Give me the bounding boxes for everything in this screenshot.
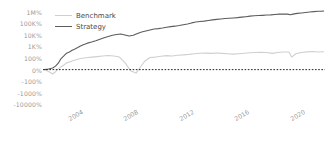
legend-color-swatch xyxy=(55,15,72,16)
x-tick-label: 2012 xyxy=(178,108,195,122)
x-tick-label: 2008 xyxy=(122,108,139,122)
legend-color-swatch xyxy=(55,26,72,27)
cumulative-returns-chart: 1M%100K%10K%1K%100%0%-100%-1000%-10000% … xyxy=(0,0,331,147)
legend-label: Benchmark xyxy=(76,12,116,20)
x-tick-label: 2020 xyxy=(289,108,306,122)
x-tick-label: 2016 xyxy=(233,108,250,122)
chart-legend: BenchmarkStrategy xyxy=(55,11,116,31)
series-line-benchmark xyxy=(44,52,323,74)
legend-item[interactable]: Benchmark xyxy=(55,11,116,20)
legend-label: Strategy xyxy=(76,23,106,31)
legend-item[interactable]: Strategy xyxy=(55,22,116,31)
x-tick-label: 2004 xyxy=(67,108,84,122)
